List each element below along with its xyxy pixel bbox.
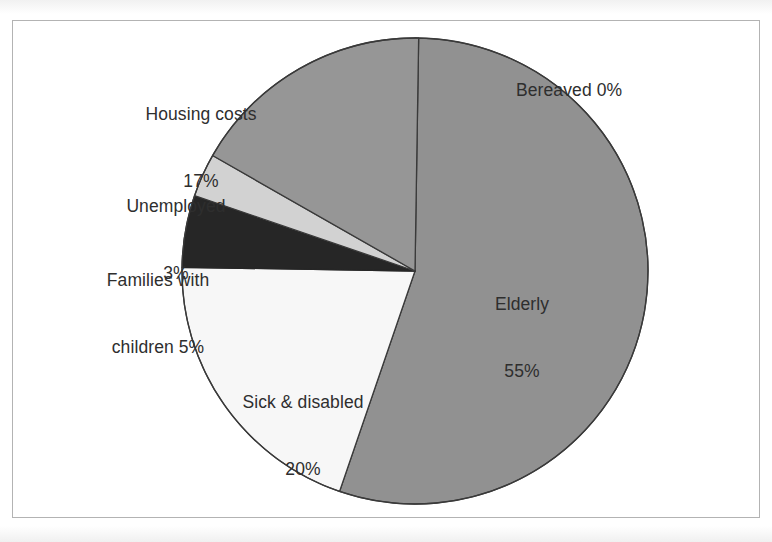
slice-label-sick-and-disabled-value: 20% bbox=[200, 458, 406, 480]
slice-label-bereaved: Bereaved 0% bbox=[516, 34, 686, 124]
slice-label-sick-and-disabled: Sick & disabled 20% bbox=[200, 346, 406, 503]
slice-label-sick-and-disabled-name: Sick & disabled bbox=[200, 391, 406, 413]
slice-label-unemployed-name: Unemployed bbox=[78, 195, 274, 217]
slice-label-families-with-children-name: Families with bbox=[58, 269, 258, 291]
slice-label-housing-costs-name: Housing costs bbox=[106, 103, 296, 125]
slice-label-bereaved-name: Bereaved 0% bbox=[516, 79, 686, 101]
slice-label-elderly: Elderly 55% bbox=[452, 248, 592, 405]
slice-label-elderly-name: Elderly bbox=[452, 293, 592, 315]
slice-label-elderly-value: 55% bbox=[452, 360, 592, 382]
